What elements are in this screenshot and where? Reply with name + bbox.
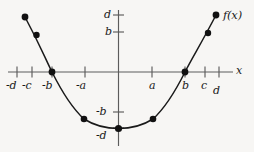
y-label-neg-b: -b [96,106,106,117]
x-label-neg-d: -d [6,80,16,91]
x-label-pos-a: a [149,80,155,91]
data-point-pos-b [182,69,189,76]
x-label-pos-b: b [182,80,189,91]
data-point-neg-c [33,32,39,38]
data-point-neg-d [22,14,29,21]
data-point-pos-d [213,12,220,19]
y-label-neg-d: -d [96,130,106,141]
x-label-pos-d: d [213,85,220,96]
graph-canvas [0,0,254,152]
data-point-neg-a [81,116,88,123]
data-point-pos-c [205,30,211,36]
data-point-pos-a [150,116,157,123]
x-label-pos-c: c [201,80,207,91]
x-label-neg-b: -b [42,80,52,91]
x-label-neg-c: -c [22,80,31,91]
y-label-pos-b: b [105,26,112,37]
y-label-pos-d: d [104,9,111,20]
figure-parabola-graph: -d -c -b -a a b c d d b -b -d x f(x) [0,0,254,152]
function-label: f(x) [223,10,242,22]
data-point-vertex [115,125,122,132]
data-point-neg-b [49,69,56,76]
x-axis-label: x [236,65,242,76]
x-label-neg-a: -a [76,80,86,91]
